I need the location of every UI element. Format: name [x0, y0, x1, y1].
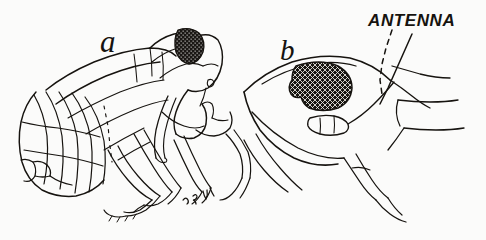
antenna-segment-division-2	[334, 116, 335, 133]
illustration-plate: a	[0, 0, 486, 240]
panel-label-a: a	[100, 24, 116, 59]
figure-canvas: a	[0, 0, 486, 240]
antenna-segment-division	[320, 118, 321, 134]
cropped-caption	[0, 230, 486, 240]
panel-label-b: b	[280, 34, 295, 66]
antenna-label: ANTENNA	[367, 11, 455, 30]
